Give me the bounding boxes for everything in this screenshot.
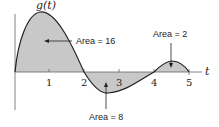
function-label: g(t) xyxy=(36,0,56,12)
tick-label: 2 xyxy=(81,77,87,88)
area-label: Area = 2 xyxy=(153,29,187,39)
area-diagram: 1 2 3 4 5 t g(t) Area = 16 Area = 8 Area… xyxy=(0,0,219,127)
shaded-region xyxy=(15,12,84,72)
tick-label: 3 xyxy=(116,77,122,88)
tick-label: 5 xyxy=(186,77,192,88)
area-label: Area = 8 xyxy=(89,112,123,122)
axis-label: t xyxy=(205,65,210,78)
area-label: Area = 16 xyxy=(76,36,115,46)
tick-label: 4 xyxy=(151,77,157,88)
tick-label: 1 xyxy=(46,77,52,88)
graph-svg: 1 2 3 4 5 t g(t) Area = 16 Area = 8 Area… xyxy=(0,0,219,127)
